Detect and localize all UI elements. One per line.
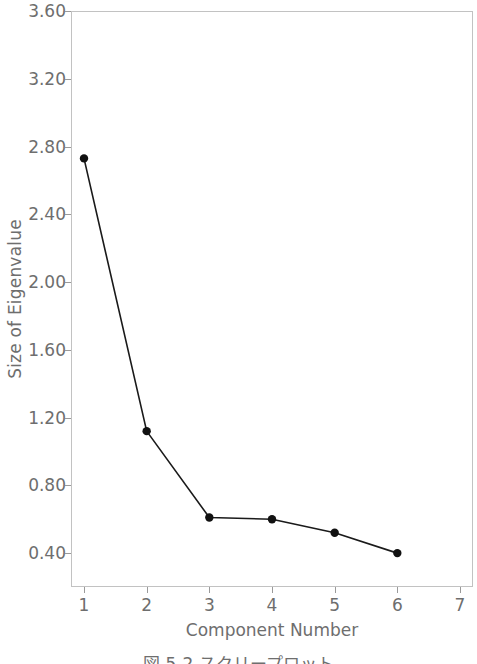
x-axis-tickmark	[84, 587, 85, 593]
data-point	[268, 515, 276, 523]
x-axis-tick-label: 7	[455, 595, 466, 615]
data-point	[393, 549, 401, 557]
y-axis-tickmark	[65, 418, 71, 419]
y-axis-tickmark	[65, 350, 71, 351]
x-axis-tick-label: 4	[267, 595, 278, 615]
y-axis-tickmark	[65, 147, 71, 148]
y-axis-tick-label: 1.20	[28, 408, 66, 428]
eigenvalue-markers	[80, 154, 402, 557]
y-axis-tickmark	[65, 553, 71, 554]
y-axis-tickmark	[65, 214, 71, 215]
data-point	[330, 529, 338, 537]
y-axis-tick-label: 2.40	[28, 204, 66, 224]
x-axis-tickmark	[209, 587, 210, 593]
x-axis-tick-label: 5	[329, 595, 340, 615]
y-axis-tick-labels: 0.400.801.201.602.002.402.803.203.60	[18, 0, 66, 598]
x-axis-tickmark	[147, 587, 148, 593]
y-axis-tick-label: 1.60	[28, 340, 66, 360]
y-axis-tick-label: 2.00	[28, 272, 66, 292]
y-axis-tick-label: 3.20	[28, 69, 66, 89]
y-axis-tick-label: 3.60	[28, 1, 66, 21]
y-axis-tickmark	[65, 11, 71, 12]
data-point	[205, 513, 213, 521]
y-axis-tickmark	[65, 282, 71, 283]
y-axis-tick-label: 2.80	[28, 137, 66, 157]
x-axis-title-label: Component Number	[71, 620, 473, 640]
x-axis-tick-labels: 1234567	[0, 595, 477, 621]
x-axis-tick-label: 6	[392, 595, 403, 615]
y-axis-tickmark	[65, 79, 71, 80]
x-axis-tick-label: 3	[204, 595, 215, 615]
x-axis-tickmark	[335, 587, 336, 593]
scree-plot-figure: Size of Eigenvalue 0.400.801.201.602.002…	[0, 0, 477, 664]
plot-canvas	[71, 11, 473, 587]
data-point	[142, 427, 150, 435]
x-axis-tickmark	[397, 587, 398, 593]
y-axis-tick-label: 0.80	[28, 475, 66, 495]
data-point	[80, 154, 88, 162]
x-axis-tickmark	[460, 587, 461, 593]
y-axis-tick-label: 0.40	[28, 543, 66, 563]
y-axis-tickmark	[65, 485, 71, 486]
figure-caption: 図 5-2 スクリープロット	[0, 650, 477, 664]
x-axis-tick-label: 1	[79, 595, 90, 615]
x-axis-tickmark	[272, 587, 273, 593]
x-axis-tick-label: 2	[141, 595, 152, 615]
eigenvalue-line	[84, 158, 397, 553]
